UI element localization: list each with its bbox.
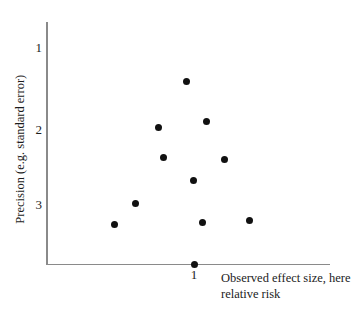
data-point: [155, 124, 162, 131]
data-point: [199, 219, 206, 226]
data-point: [203, 118, 210, 125]
data-point: [132, 200, 139, 207]
data-point: [191, 261, 198, 268]
scatter-points-layer: [0, 0, 363, 319]
data-point: [111, 221, 118, 228]
data-point: [190, 177, 197, 184]
data-point: [246, 217, 253, 224]
data-point: [221, 156, 228, 163]
funnel-plot-figure: 123 1 Precision (e.g. standard error) Ob…: [0, 0, 363, 319]
data-point: [160, 154, 167, 161]
data-point: [183, 78, 190, 85]
